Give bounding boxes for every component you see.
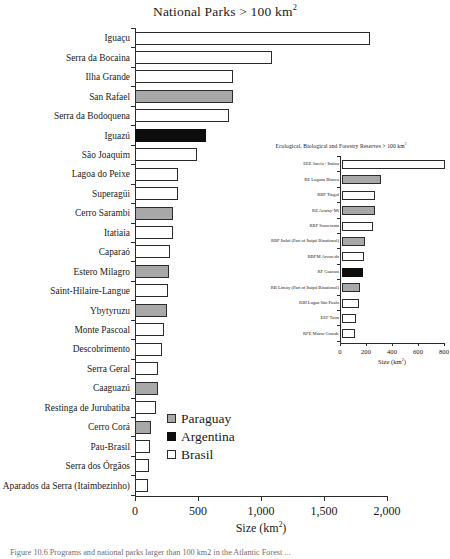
inset-chart-row: RBI Lagoa São Paulo [232, 296, 450, 311]
legend-label: Argentina [181, 428, 235, 446]
main-chart-category-label: Ybytyruzu [0, 307, 135, 316]
main-chart-row: Serra da Bodoquena [0, 107, 450, 127]
inset-chart-bar [342, 206, 375, 215]
main-chart-bar [135, 129, 206, 142]
main-chart-category-label: Cerro Corá [0, 423, 135, 432]
main-chart-category-label: Restinga de Jurubatiba [0, 404, 135, 413]
legend-swatch-paraguay [167, 414, 176, 423]
inset-x-axis-title-tail: ) [404, 358, 406, 365]
inset-chart-bar [342, 237, 365, 246]
main-chart-category-label: Serra da Bodoquena [0, 112, 135, 121]
main-chart-bar [135, 459, 149, 472]
inset-chart-category-label: RBF Sooretama [232, 224, 342, 229]
inset-chart-row: EEF Taim [232, 311, 450, 326]
main-chart-row: Aparados da Serra (Itaimbezinho) [0, 476, 450, 496]
main-chart-category-label: Ilha Grande [0, 73, 135, 82]
main-chart-bar-track [135, 29, 450, 49]
main-chart-category-label: Descobrimento [0, 345, 135, 354]
main-x-axis-title: Size (km2) [135, 520, 387, 536]
inset-chart-bar [342, 160, 445, 169]
inset-chart-bar [342, 252, 364, 261]
legend: ParaguayArgentinaBrasil [167, 410, 235, 463]
figure-caption: Figure 10.6 Programs and national parks … [10, 548, 450, 557]
main-chart-bar [135, 343, 162, 356]
main-chart-bar [135, 382, 158, 395]
inset-x-tick-label: 600 [413, 348, 423, 355]
page-title: National Parks > 100 km2 [0, 3, 450, 20]
inset-chart-row: RBFM Arvoredo [232, 249, 450, 264]
main-chart-bar [135, 90, 233, 103]
inset-y-tick [337, 156, 340, 157]
inset-chart-bar-track [342, 296, 450, 311]
inset-x-tick-label: 200 [361, 348, 371, 355]
inset-chart-bar-track [342, 157, 450, 172]
legend-item-brasil: Brasil [167, 446, 235, 464]
main-chart-category-label: Lagoa do Peixe [0, 170, 135, 179]
main-chart-bar [135, 109, 229, 122]
inset-chart-bar-track [342, 311, 450, 326]
inset-x-tick-label: 0 [338, 348, 341, 355]
main-chart-bar [135, 421, 151, 434]
inset-x-axis-title: Size (km2) [340, 357, 444, 365]
main-chart-category-label: Aparados da Serra (Itaimbezinho) [0, 482, 135, 491]
main-chart-category-label: Serra Geral [0, 365, 135, 374]
main-chart-category-label: Iguaçu [0, 34, 135, 43]
inset-chart-category-label: RBFM Arvoredo [232, 255, 342, 260]
inset-chart-bar-track [342, 234, 450, 249]
inset-chart-category-label: RFE Morro Grande [232, 332, 342, 337]
inset-chart-bar [342, 191, 375, 200]
main-chart-bar [135, 168, 178, 181]
inset-chart-bar-track [342, 265, 450, 280]
inset-x-tick-label: 800 [439, 348, 449, 355]
inset-chart-category-label: RBI Lagoa São Paulo [232, 301, 342, 306]
main-chart-bar [135, 51, 272, 64]
inset-chart-bar [342, 314, 356, 323]
inset-chart-row: RBF Tingol [232, 188, 450, 203]
inset-x-tick [392, 343, 393, 346]
inset-chart-row: RF Guarani [232, 265, 450, 280]
inset-chart-bar-track [342, 280, 450, 295]
inset-chart-category-label: EEE Jureía - Itatins [232, 162, 342, 167]
inset-x-tick [340, 343, 341, 346]
main-chart-bar [135, 323, 164, 336]
inset-x-tick [444, 343, 445, 346]
inset-x-tick-label: 400 [387, 348, 397, 355]
main-x-tick [387, 496, 388, 501]
inset-chart-bar-track [342, 188, 450, 203]
main-chart-category-label: Iguazú [0, 132, 135, 141]
main-chart-category-label: São Joaquim [0, 151, 135, 160]
main-x-tick-label: 2,000 [374, 504, 401, 519]
inset-chart-row: EEE Jureía - Itatins [232, 157, 450, 172]
page-title-superscript: 2 [293, 3, 297, 12]
main-x-tick-label: 1,500 [311, 504, 338, 519]
inset-chart-category-label: RBF Tingol [232, 193, 342, 198]
main-chart-category-label: Serra dos Órgãos [0, 462, 135, 471]
inset-chart-bar [342, 175, 381, 184]
main-chart-bar-track [135, 48, 450, 68]
main-x-axis-title-text: Size (km [236, 521, 279, 535]
main-chart-bar-track [135, 87, 450, 107]
main-chart-category-label: Pau-Brasil [0, 443, 135, 452]
main-x-tick-label: 0 [132, 504, 138, 519]
main-chart-bar [135, 479, 148, 492]
main-chart-category-label: Monte Pascoal [0, 326, 135, 335]
main-chart-row: Serra da Bocaina [0, 48, 450, 68]
main-chart-bar [135, 265, 169, 278]
main-chart-bar [135, 362, 158, 375]
inset-chart-category-label: EEF Taim [232, 316, 342, 321]
main-chart-bar [135, 32, 370, 45]
inset-chart-bar [342, 222, 373, 231]
inset-chart-bar [342, 283, 360, 292]
main-x-tick [324, 496, 325, 501]
inset-chart-bar-track [342, 219, 450, 234]
inset-chart-category-label: RE Acaray-Mi [232, 209, 342, 214]
main-chart-row: Iguaçu [0, 29, 450, 49]
inset-chart: Ecological, Biological and Forestry Rese… [232, 142, 450, 400]
main-chart-bar [135, 245, 170, 258]
inset-chart-row: RBF Itabó (Part of Itaipú Binational) [232, 234, 450, 249]
inset-chart-row: RBF Sooretama [232, 219, 450, 234]
inset-title-superscript: 2 [405, 142, 407, 146]
inset-chart-category-label: RE Laguna Blanca [232, 178, 342, 183]
inset-chart-row: RFE Morro Grande [232, 326, 450, 341]
legend-swatch-argentina [167, 432, 176, 441]
